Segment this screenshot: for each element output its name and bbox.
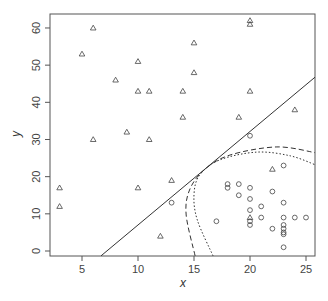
circle-marker xyxy=(248,185,253,190)
x-tick-label: 25 xyxy=(300,263,312,275)
circle-marker xyxy=(304,215,309,220)
triangle-marker xyxy=(135,185,141,190)
x-axis: 510152025 xyxy=(79,256,312,275)
triangle-marker xyxy=(146,88,152,93)
triangle-marker xyxy=(236,114,242,119)
circle-marker xyxy=(281,215,286,220)
plot-frame xyxy=(50,14,315,256)
triangle-marker xyxy=(124,129,130,134)
y-tick-label: 10 xyxy=(30,208,42,220)
triangle-marker xyxy=(57,185,63,190)
circle-marker xyxy=(270,226,275,231)
circle-marker xyxy=(259,215,264,220)
y-tick-label: 0 xyxy=(30,248,42,254)
triangle-marker xyxy=(79,51,85,56)
circle-marker xyxy=(236,182,241,187)
dotted-boundary-curve xyxy=(194,152,316,256)
circle-marker xyxy=(248,208,253,213)
x-axis-title: x xyxy=(179,276,187,290)
circle-marker xyxy=(248,197,253,202)
triangle-marker xyxy=(292,107,298,112)
triangle-marker xyxy=(180,88,186,93)
y-tick-label: 40 xyxy=(30,96,42,108)
y-tick-label: 20 xyxy=(30,171,42,183)
circle-marker xyxy=(292,215,297,220)
triangle-marker xyxy=(113,77,119,82)
triangle-marker xyxy=(270,166,276,171)
circle-marker xyxy=(259,204,264,209)
triangle-marker xyxy=(158,233,164,238)
circle-marker xyxy=(281,245,286,250)
triangle-marker xyxy=(57,204,63,209)
scatter-plot: 510152025 0102030405060 x y xyxy=(0,0,328,301)
circle-marker xyxy=(236,193,241,198)
data-points xyxy=(57,18,309,250)
triangle-marker xyxy=(146,137,152,142)
y-axis: 0102030405060 xyxy=(30,22,50,254)
x-tick-label: 10 xyxy=(132,263,144,275)
y-tick-label: 30 xyxy=(30,133,42,145)
triangle-marker xyxy=(90,137,96,142)
triangle-marker xyxy=(135,88,141,93)
y-tick-label: 50 xyxy=(30,59,42,71)
circle-marker xyxy=(270,189,275,194)
triangle-marker xyxy=(169,178,175,183)
circle-marker xyxy=(281,163,286,168)
y-axis-title: y xyxy=(9,130,23,138)
triangle-marker xyxy=(135,59,141,64)
x-tick-label: 20 xyxy=(244,263,256,275)
x-tick-label: 5 xyxy=(79,263,85,275)
triangle-marker xyxy=(191,70,197,75)
triangle-marker xyxy=(247,88,253,93)
triangle-marker xyxy=(180,114,186,119)
circle-marker xyxy=(169,200,174,205)
triangle-marker xyxy=(90,25,96,30)
triangle-marker xyxy=(191,40,197,45)
decision-boundaries xyxy=(101,76,316,256)
circle-marker xyxy=(248,133,253,138)
circle-marker xyxy=(281,200,286,205)
y-tick-label: 60 xyxy=(30,22,42,34)
x-tick-label: 15 xyxy=(188,263,200,275)
circle-marker xyxy=(214,219,219,224)
